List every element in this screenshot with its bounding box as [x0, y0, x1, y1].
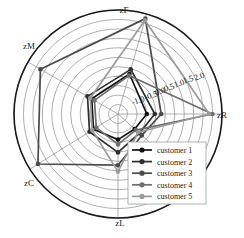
chart-legend[interactable]: customer 1customer 2customer 3customer 4…	[128, 142, 206, 204]
legend-marker-icon	[139, 194, 144, 199]
legend-label: customer 2	[157, 158, 192, 167]
radial-tick-label: 2.0	[192, 70, 205, 83]
data-point	[92, 98, 97, 103]
radar-chart-svg: -1.0-0.50.00.51.01.52.0 zFzMzCzLzR custo…	[0, 0, 244, 238]
legend-label: customer 4	[157, 181, 192, 190]
data-point	[116, 169, 121, 174]
data-point	[88, 96, 93, 101]
legend-label: customer 3	[157, 169, 192, 178]
data-point	[38, 67, 43, 72]
data-point	[139, 133, 144, 138]
legend-label: customer 5	[157, 192, 192, 201]
data-point	[127, 73, 132, 78]
legend-label: customer 1	[157, 146, 192, 155]
legend-marker-icon	[139, 147, 144, 152]
legend-marker-icon	[139, 159, 144, 164]
axis-label-zL: zL	[115, 218, 125, 228]
data-point	[90, 128, 95, 133]
data-point	[116, 137, 121, 142]
data-point	[36, 162, 41, 167]
legend-marker-icon	[139, 171, 144, 176]
data-point	[159, 112, 164, 117]
data-point	[153, 112, 158, 117]
axis-label-zC: zC	[24, 178, 34, 188]
data-point	[128, 67, 133, 72]
legend-marker-icon	[139, 182, 144, 187]
axis-label-zF: zF	[120, 5, 129, 15]
radar-chart-container: -1.0-0.50.00.51.01.52.0 zFzMzCzLzR custo…	[0, 0, 244, 238]
data-point	[116, 150, 121, 155]
axis-label-zM: zM	[23, 41, 35, 51]
data-point	[94, 125, 99, 130]
data-point	[145, 112, 150, 117]
data-point	[136, 130, 141, 135]
axis-label-zR: zR	[217, 110, 227, 120]
data-point	[143, 18, 148, 23]
data-point	[116, 142, 121, 147]
data-point	[207, 112, 212, 117]
